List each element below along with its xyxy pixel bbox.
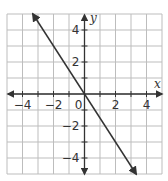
- y-tick-label: 4: [72, 23, 80, 37]
- coordinate-plane-chart: −4−2024−4−224 x y: [0, 0, 168, 181]
- y-tick-label: −2: [62, 119, 80, 133]
- x-tick-label: −4: [14, 98, 32, 112]
- x-tick-label: 2: [112, 98, 120, 112]
- x-axis-label: x: [154, 77, 161, 91]
- y-tick-label: −4: [62, 151, 80, 165]
- y-tick-label: 2: [72, 55, 80, 69]
- x-tick-label: 4: [143, 98, 151, 112]
- y-axis-label: y: [89, 11, 97, 25]
- x-tick-label: 0: [75, 98, 83, 112]
- x-tick-label: −2: [45, 98, 63, 112]
